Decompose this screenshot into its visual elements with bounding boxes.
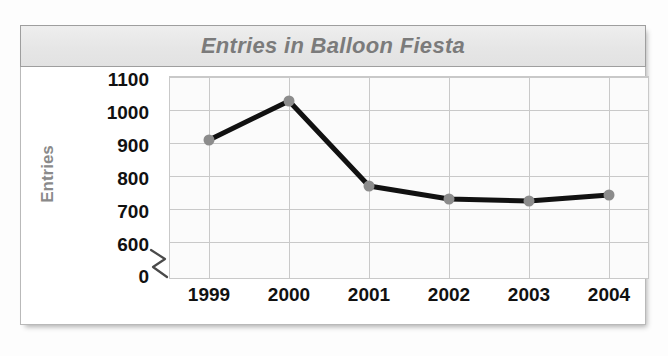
x-tick-1999: 1999: [169, 284, 249, 306]
chart-card: Entries in Balloon Fiesta Entries 1100 1…: [20, 25, 646, 325]
x-tick-2004: 2004: [569, 284, 649, 306]
y-axis-title: Entries: [38, 129, 58, 219]
data-point-2003: [524, 196, 535, 207]
y-tick-1100: 1100: [77, 70, 149, 89]
chart-body: Entries 1100 1000 900 800 700 600 0: [21, 68, 645, 324]
x-tick-2003: 2003: [489, 284, 569, 306]
data-point-2001: [364, 181, 375, 192]
y-tick-800: 800: [77, 169, 149, 188]
x-tick-2000: 2000: [249, 284, 329, 306]
data-point-1999: [204, 135, 215, 146]
chart-title: Entries in Balloon Fiesta: [201, 33, 465, 59]
horizontal-gridlines: [170, 78, 648, 243]
chart-title-banner: Entries in Balloon Fiesta: [20, 25, 646, 67]
y-tick-1000: 1000: [77, 103, 149, 122]
data-point-2002: [444, 194, 455, 205]
vertical-gridlines: [210, 77, 610, 278]
line-chart-svg: [170, 77, 648, 278]
x-tick-2002: 2002: [409, 284, 489, 306]
y-tick-900: 900: [77, 136, 149, 155]
data-line: [209, 101, 609, 201]
y-tick-0: 0: [77, 267, 149, 286]
x-tick-2001: 2001: [329, 284, 409, 306]
chart-stage: Entries in Balloon Fiesta Entries 1100 1…: [0, 0, 668, 356]
y-tick-600: 600: [77, 235, 149, 254]
plot-area: [169, 76, 649, 279]
y-tick-700: 700: [77, 202, 149, 221]
data-point-2004: [604, 190, 615, 201]
y-axis-tick-labels: 1100 1000 900 800 700 600 0: [71, 68, 149, 324]
data-point-2000: [284, 96, 295, 107]
